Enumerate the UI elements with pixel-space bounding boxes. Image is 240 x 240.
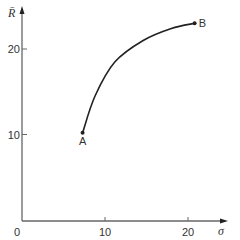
- x-tick-label: 0: [14, 226, 20, 238]
- point-label-a: A: [79, 135, 87, 147]
- x-axis-arrow-icon: [220, 219, 228, 224]
- y-axis-arrow-icon: [20, 6, 25, 14]
- annotations: AB: [79, 17, 206, 146]
- y-tick-label: 10: [8, 129, 20, 141]
- y-tick-label: 20: [8, 43, 20, 55]
- y-axis-label: R̄: [7, 6, 16, 20]
- ticks: 010201020: [8, 43, 194, 238]
- x-tick-label: 10: [99, 226, 111, 238]
- x-axis-label: σ: [218, 224, 225, 238]
- curve-line: [83, 23, 195, 132]
- point-label-b: B: [199, 17, 206, 29]
- chart: R̄ σ 010201020 AB: [0, 0, 240, 240]
- series: [83, 23, 195, 132]
- point-marker-b: [193, 21, 197, 25]
- x-tick-label: 20: [182, 226, 194, 238]
